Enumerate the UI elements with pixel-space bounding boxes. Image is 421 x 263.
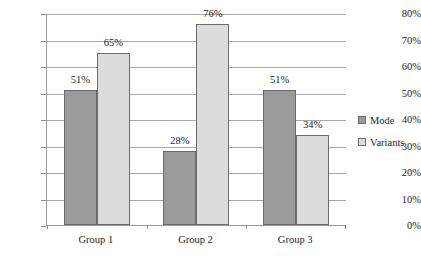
bar-group: 51%34% xyxy=(246,14,346,225)
legend-swatch-icon xyxy=(358,116,366,124)
bar-value-label: 51% xyxy=(257,75,302,86)
bar-value-label: 34% xyxy=(290,120,335,131)
bar-group: 28%76% xyxy=(147,14,247,225)
bar-mode-group-3 xyxy=(263,90,296,225)
plot-area: 51%65%28%76%51%34% xyxy=(46,14,345,226)
x-axis-category-label: Group 1 xyxy=(46,234,146,245)
x-axis-category-label: Group 3 xyxy=(245,234,345,245)
bar-group: 51%65% xyxy=(47,14,147,225)
y-axis-tick-label: 10% xyxy=(381,195,421,206)
x-axis-tick-mark xyxy=(147,225,148,229)
legend-item-label: Variants xyxy=(370,137,404,148)
y-axis-tick-label: 70% xyxy=(381,36,421,47)
y-axis-tick-mark xyxy=(41,226,46,227)
y-axis-tick-label: 50% xyxy=(381,89,421,100)
bar-mode-group-1 xyxy=(64,90,97,225)
y-axis-tick-label: 20% xyxy=(381,168,421,179)
legend-swatch-icon xyxy=(358,138,366,146)
bar-variants-group-2 xyxy=(196,24,229,225)
legend-item-label: Mode xyxy=(370,115,395,126)
bar-variants-group-3 xyxy=(296,135,329,225)
bar-variants-group-1 xyxy=(97,53,130,225)
bar-mode-group-2 xyxy=(163,151,196,225)
y-axis-tick-label: 0% xyxy=(381,221,421,232)
legend-item-mode[interactable]: Mode xyxy=(358,112,421,128)
bar-value-label: 65% xyxy=(91,38,136,49)
x-axis-tick-mark xyxy=(246,225,247,229)
x-axis-tick-mark xyxy=(345,225,346,229)
x-axis-category-label: Group 2 xyxy=(146,234,246,245)
x-axis-tick-mark xyxy=(47,225,48,229)
bar-chart: 0%10%20%30%40%50%60%70%80% 51%65%28%76%5… xyxy=(0,0,421,263)
y-axis-tick-label: 60% xyxy=(381,62,421,73)
legend-item-variants[interactable]: Variants xyxy=(358,134,421,150)
y-axis-tick-label: 80% xyxy=(381,9,421,20)
chart-legend: ModeVariants xyxy=(358,112,421,156)
bar-value-label: 76% xyxy=(190,9,235,20)
